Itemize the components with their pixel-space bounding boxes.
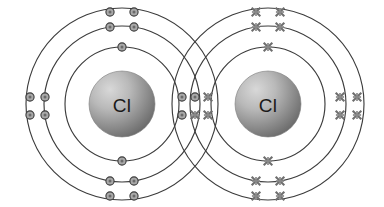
electron-right-shell3-cross-2 [252, 192, 261, 201]
electron-left-shell3-dot-1 [130, 8, 138, 16]
electron-right-shell3-cross-4 [353, 93, 362, 102]
shared-electron-cross-1 [191, 111, 200, 120]
electron-right-shell2-cross-7 [336, 111, 345, 120]
cl2-dot-and-cross-diagram: Cl Cl [0, 0, 384, 207]
electron-right-shell3-cross-0 [252, 8, 261, 17]
electron-right-shell1-cross-0 [264, 43, 273, 52]
electron-right-shell1-cross-1 [264, 157, 273, 166]
electron-right-shell2-cross-1 [276, 23, 285, 32]
diagram-canvas: Cl Cl [0, 0, 384, 207]
electron-left-shell3-dot-3 [130, 192, 138, 200]
electron-left-shell2-dot-0 [106, 23, 114, 31]
electron-left-shell3-dot-5 [26, 111, 34, 119]
electron-right-shell3-cross-5 [353, 111, 362, 120]
electron-left-shell2-dot-3 [130, 177, 138, 185]
electron-left-shell2-dot-5 [41, 111, 49, 119]
left-nucleus: Cl [89, 71, 155, 137]
electron-right-shell2-cross-5 [204, 111, 213, 120]
electron-left-shell2-dot-6 [178, 93, 186, 101]
left-nucleus-label: Cl [113, 95, 132, 116]
electron-left-shell3-dot-4 [26, 93, 34, 101]
electron-left-shell2-dot-2 [106, 177, 114, 185]
shared-electron-dot-0 [191, 93, 199, 101]
electron-layer [26, 8, 361, 201]
electron-left-shell1-dot-1 [118, 157, 126, 165]
electron-right-shell3-cross-1 [276, 8, 285, 17]
electron-right-shell2-cross-4 [204, 93, 213, 102]
electron-right-shell2-cross-2 [252, 177, 261, 186]
electron-left-shell2-dot-1 [130, 23, 138, 31]
electron-right-shell2-cross-0 [252, 23, 261, 32]
electron-left-shell1-dot-0 [118, 43, 126, 51]
electron-left-shell3-dot-0 [106, 8, 114, 16]
electron-right-shell3-cross-3 [276, 192, 285, 201]
electron-right-shell2-cross-3 [276, 177, 285, 186]
right-nucleus-label: Cl [259, 95, 278, 116]
right-nucleus: Cl [235, 71, 301, 137]
electron-left-shell3-dot-2 [106, 192, 114, 200]
electron-left-shell2-dot-4 [41, 93, 49, 101]
electron-right-shell2-cross-6 [336, 93, 345, 102]
electron-left-shell2-dot-7 [178, 111, 186, 119]
